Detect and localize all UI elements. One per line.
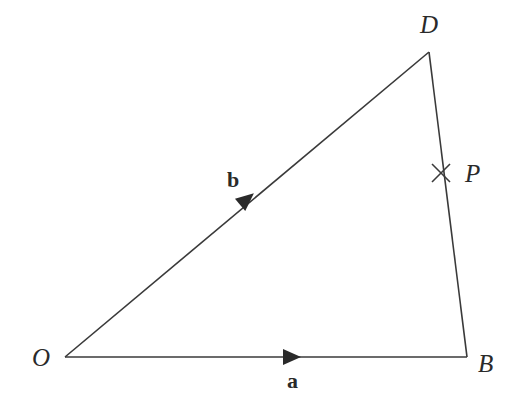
point-P-cross-icon	[432, 164, 450, 182]
edge-DB	[429, 52, 467, 357]
arrow-a-icon	[283, 349, 301, 365]
label-O: O	[32, 344, 50, 371]
vector-diagram: O B D P a b	[0, 0, 522, 402]
label-B: B	[478, 350, 493, 377]
label-P: P	[464, 160, 480, 187]
vector-label-b: b	[227, 167, 239, 192]
label-D: D	[419, 11, 438, 38]
vector-label-a: a	[287, 368, 298, 393]
